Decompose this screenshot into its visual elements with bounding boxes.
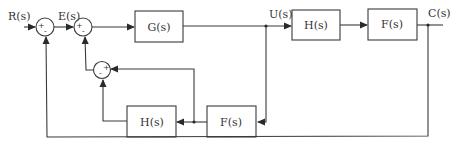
block-g-label: G(s) — [147, 21, 170, 34]
sum1-minus-sign: - — [44, 27, 47, 36]
signal-label-u: U(s) — [269, 8, 293, 21]
sum3-plus-sign: + — [103, 63, 110, 72]
sum3-minus-sign: - — [99, 69, 102, 78]
block-f-forward-label: F(s) — [381, 18, 403, 31]
h-to-sum3-line — [103, 80, 127, 121]
branch-to-sum3-line — [111, 69, 194, 122]
block-h-forward-label: H(s) — [304, 19, 328, 32]
branch-point-u — [264, 24, 267, 27]
u-branch-line — [258, 26, 266, 122]
branch-point-c — [426, 23, 429, 26]
signal-label-c: C(s) — [428, 7, 451, 20]
sum2-minus-sign: - — [82, 27, 85, 36]
sum3-to-sum2-line — [85, 37, 93, 70]
signal-label-r: R(s) — [8, 10, 31, 23]
block-diagram: R(s) E(s) U(s) C(s) G(s) H(s) F(s) F(s) … — [0, 0, 461, 141]
block-h-feedback-label: H(s) — [140, 116, 164, 129]
branch-point-inner — [192, 120, 195, 123]
block-f-feedback-label: F(s) — [220, 116, 242, 129]
